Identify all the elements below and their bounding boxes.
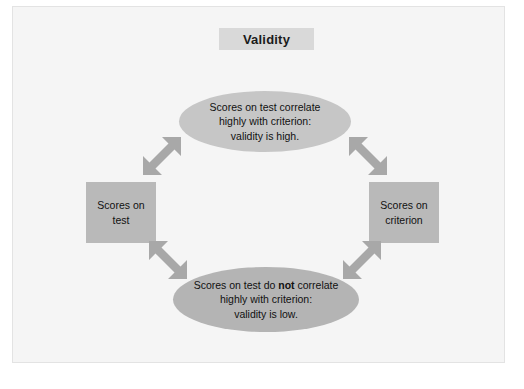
ellipse-low-emphasis-not: not [278,279,294,291]
ellipse-validity-low-label: Scores on test do not correlate highly w… [182,278,351,321]
ellipse-validity-high: Scores on test correlate highly with cri… [179,91,351,152]
double-arrow-icon-top-right [335,133,395,189]
ellipse-low-line-3: validity is low. [234,308,298,320]
ellipse-validity-high-label: Scores on test correlate highly with cri… [198,100,333,143]
ellipse-low-line-1-prefix: Scores on test do [194,279,279,291]
ellipse-high-line-3: validity is high. [231,130,299,142]
diagram-title-band: Validity [219,28,314,50]
diagram-canvas: Validity Scores on test correlate highly… [12,6,505,363]
ellipse-high-line-2: highly with criterion: [219,115,311,127]
node-scores-on-criterion-label: Scores on criterion [369,198,439,226]
double-arrow-icon-top-left [135,133,195,189]
page-title: Validity [243,33,290,46]
ellipse-high-line-1: Scores on test correlate [210,101,321,113]
ellipse-low-line-1-suffix: correlate [295,279,339,291]
double-arrow-icon-bottom-right [335,237,395,293]
ellipse-validity-low: Scores on test do not correlate highly w… [173,267,359,332]
node-scores-on-test-label: Scores on test [86,198,156,226]
node-scores-on-criterion: Scores on criterion [369,182,439,243]
node-scores-on-test: Scores on test [86,182,156,243]
double-arrow-icon-bottom-left [135,237,195,293]
ellipse-low-line-2: highly with criterion: [220,293,312,305]
